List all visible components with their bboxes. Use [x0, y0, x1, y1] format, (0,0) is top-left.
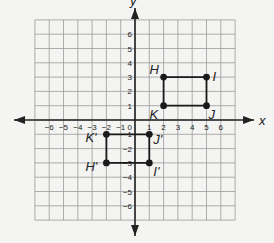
x-tick-label: −6 — [45, 123, 55, 132]
point-label: I — [213, 69, 217, 84]
y-axis-label: y — [129, 0, 138, 8]
y-tick-label: −4 — [123, 173, 133, 182]
point-h — [160, 74, 167, 81]
y-tick-label: 1 — [128, 102, 133, 111]
x-tick-label: 6 — [219, 123, 224, 132]
x-axis-right-arrow-icon — [243, 116, 254, 124]
y-tick-label: 2 — [128, 87, 133, 96]
x-tick-label: 3 — [176, 123, 181, 132]
x-axis-left-arrow-icon — [14, 116, 25, 124]
point-label: I' — [153, 164, 160, 179]
point-label: J' — [152, 132, 163, 147]
x-tick-label: 4 — [190, 123, 195, 132]
point-label: H — [150, 62, 160, 77]
point-j-prime — [146, 131, 153, 138]
point-label: J — [208, 107, 216, 122]
x-tick-label: 1 — [147, 123, 152, 132]
y-tick-label: 4 — [128, 59, 133, 68]
y-tick-label: −6 — [123, 202, 133, 211]
x-tick-label: −2 — [102, 123, 112, 132]
origin-label: 0 — [128, 123, 133, 132]
x-axis-label: x — [258, 113, 266, 128]
y-tick-label: 3 — [128, 73, 133, 82]
y-axis-down-arrow-icon — [131, 225, 139, 236]
y-axis-up-arrow-icon — [131, 8, 139, 19]
point-i-prime — [146, 160, 153, 167]
point-label: K — [150, 107, 160, 122]
point-h-prime — [103, 160, 110, 167]
point-i — [203, 74, 210, 81]
y-tick-label: 6 — [128, 30, 133, 39]
axes — [14, 8, 254, 236]
x-tick-label: −4 — [73, 123, 83, 132]
y-tick-label: −2 — [123, 145, 133, 154]
coordinate-plane: −6−5−4−3−2−1123456654321−1−2−3−4−5−60 HI… — [0, 0, 274, 243]
y-tick-label: −5 — [123, 188, 133, 197]
y-tick-label: 5 — [128, 45, 133, 54]
point-k-prime — [103, 131, 110, 138]
x-tick-label: 2 — [161, 123, 166, 132]
point-k — [160, 102, 167, 109]
x-tick-label: 5 — [204, 123, 209, 132]
point-label: K' — [85, 130, 97, 145]
x-tick-label: −5 — [59, 123, 69, 132]
point-label: H' — [85, 159, 97, 174]
